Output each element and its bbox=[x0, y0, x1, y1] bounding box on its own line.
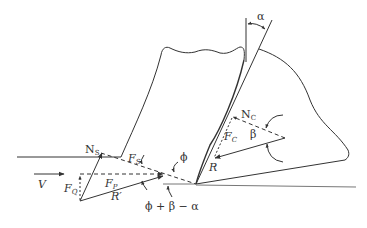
alpha-label: α bbox=[257, 10, 265, 23]
tool-rake-face bbox=[196, 20, 272, 184]
machined-surface-line bbox=[196, 185, 356, 187]
tool-normal-label: NC bbox=[241, 108, 256, 122]
shear-normal-label: NS bbox=[85, 143, 100, 157]
resultant-label: R bbox=[208, 161, 217, 174]
phi-label: ϕ bbox=[180, 151, 188, 164]
resultant-prime-label: R′ bbox=[110, 190, 122, 203]
resultant-prime-arc bbox=[142, 181, 147, 190]
shear-force-label: FS bbox=[127, 152, 141, 166]
chip-top-edge bbox=[170, 47, 244, 60]
shear-normal-force-arrow bbox=[80, 153, 102, 201]
cutting-diagram: α ϕ β V NS FS FP FQ R′ ϕ + β − α NC FC R bbox=[0, 0, 367, 228]
shear-force-arc bbox=[141, 155, 144, 164]
beta-arc-top bbox=[266, 115, 283, 128]
alpha-arc bbox=[248, 24, 265, 29]
beta-label: β bbox=[250, 128, 256, 141]
beta-arc-bottom bbox=[267, 144, 283, 162]
friction-force-label: FC bbox=[223, 130, 238, 144]
phi-arc bbox=[174, 162, 179, 172]
chip-inner-edge bbox=[196, 60, 244, 184]
angle-sum-label: ϕ + β − α bbox=[145, 200, 199, 213]
tool-body bbox=[196, 49, 349, 184]
velocity-label: V bbox=[38, 178, 47, 191]
angle-sum-arc bbox=[168, 186, 172, 197]
chip-outer-edge bbox=[121, 47, 170, 157]
thrust-force-label: FQ bbox=[63, 182, 78, 196]
cutting-force-label: FP bbox=[104, 177, 118, 191]
